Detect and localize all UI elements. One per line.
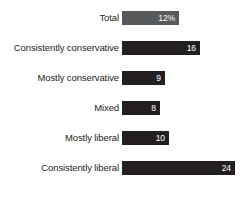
chart-row: Mostly liberal 10 (0, 131, 245, 145)
category-label: Mostly liberal (65, 133, 119, 143)
bar-value-label: 8 (151, 104, 160, 113)
bar-mostly-conservative[interactable]: 9 (122, 71, 165, 85)
bar-value-label: 9 (156, 74, 165, 83)
bar-mixed[interactable]: 8 (122, 101, 160, 115)
bar-chart: Total 12% Consistently conservative 16 M… (0, 0, 245, 197)
category-label: Total (99, 13, 119, 23)
category-label: Consistently liberal (41, 163, 119, 173)
chart-row: Consistently conservative 16 (0, 41, 245, 55)
category-label: Mostly conservative (37, 73, 119, 83)
bar-value-label: 24 (222, 164, 235, 173)
bar-total[interactable]: 12% (122, 11, 179, 25)
bar-value-label: 12% (158, 14, 179, 23)
category-label: Mixed (94, 103, 119, 113)
bar-value-label: 16 (187, 44, 200, 53)
bar-consistently-conservative[interactable]: 16 (122, 41, 200, 55)
chart-row: Total 12% (0, 11, 245, 25)
chart-row: Consistently liberal 24 (0, 161, 245, 175)
bar-consistently-liberal[interactable]: 24 (122, 161, 235, 175)
category-label: Consistently conservative (14, 43, 119, 53)
bar-value-label: 10 (156, 134, 169, 143)
chart-row: Mixed 8 (0, 101, 245, 115)
bar-mostly-liberal[interactable]: 10 (122, 131, 169, 145)
chart-row: Mostly conservative 9 (0, 71, 245, 85)
